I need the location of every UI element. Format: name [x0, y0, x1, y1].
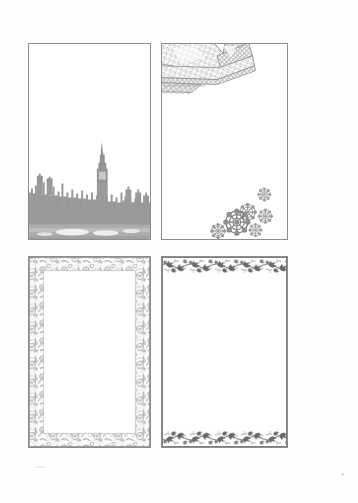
scan-speck: [341, 473, 344, 476]
panel-artwork-area: [162, 44, 287, 239]
border-template-grid: [28, 43, 288, 448]
panel-artwork-area: [162, 257, 287, 447]
border-template-london-skyline[interactable]: [28, 43, 151, 240]
border-template-lace-corner[interactable]: [161, 43, 288, 240]
panel-artwork-area: [29, 44, 150, 239]
floral-frame-illustration: [29, 257, 150, 447]
rosette: [210, 223, 226, 239]
border-template-ivy-band[interactable]: [161, 256, 288, 448]
page-caption: Sheet of four decorative page border tem…: [0, 0, 1, 1]
rosette: [223, 209, 250, 236]
scan-smudge: [36, 466, 45, 468]
ivy-band-top: [163, 259, 286, 276]
rosette: [248, 223, 262, 237]
london-skyline-illustration: [29, 44, 150, 239]
scanned-page: Sheet of four decorative page border tem…: [0, 0, 358, 503]
rosette: [258, 208, 273, 223]
lace-corner-rosette-illustration: [162, 44, 287, 239]
writing-area: [163, 277, 286, 427]
border-template-floral-frame[interactable]: [28, 256, 151, 448]
rosette: [257, 187, 271, 201]
panel-artwork-area: [29, 257, 150, 447]
writing-area: [44, 271, 134, 432]
ivy-band-illustration: [162, 257, 287, 447]
ivy-band-bottom: [163, 428, 286, 445]
